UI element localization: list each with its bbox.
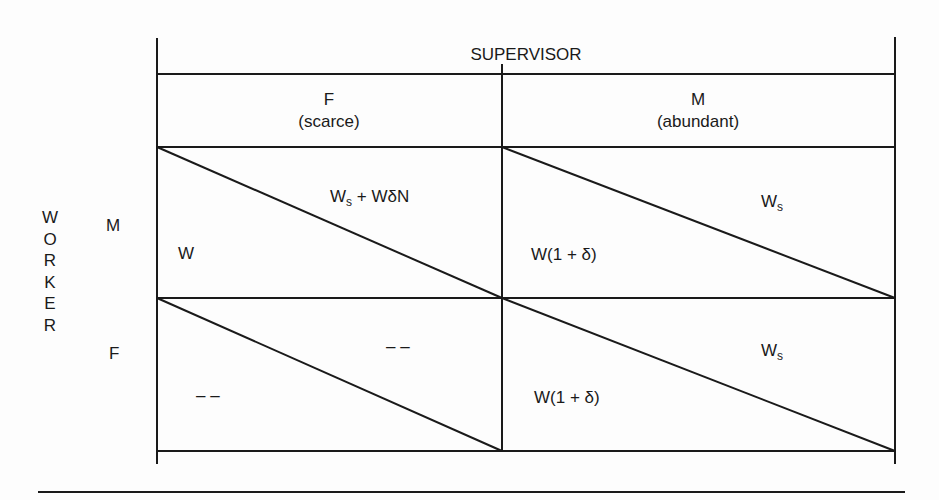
payoff-grid-lines xyxy=(0,0,939,500)
cell-m-m-upper: Ws xyxy=(761,193,783,213)
diagonal-f-f xyxy=(157,298,502,451)
worker-letter: R xyxy=(40,250,60,272)
worker-letter: K xyxy=(40,272,60,294)
diagonal-m-m xyxy=(502,147,895,298)
cell-m-f-upper: Ws + WδN xyxy=(330,188,409,208)
worker-letter: E xyxy=(40,293,60,315)
row-label-m: M xyxy=(106,217,120,234)
diagonal-m-f xyxy=(157,147,502,298)
cell-m-m-lower: W(1 + δ) xyxy=(531,246,597,263)
cell-m-f-lower: W xyxy=(178,245,194,262)
row-label-f: F xyxy=(109,345,119,362)
column-header-m: M xyxy=(691,91,705,108)
cell-f-m-lower: W(1 + δ) xyxy=(534,389,600,406)
column-header-f: F xyxy=(324,91,334,108)
cell-f-m-upper: Ws xyxy=(761,342,783,362)
diagonal-f-m xyxy=(502,298,895,451)
worker-axis-label: W O R K E R xyxy=(40,207,60,336)
supervisor-title: SUPERVISOR xyxy=(470,46,581,63)
column-subheader-f: (scarce) xyxy=(298,113,359,130)
cell-f-f-upper: – – xyxy=(386,338,410,355)
cell-f-f-lower: – – xyxy=(196,387,220,404)
column-subheader-m: (abundant) xyxy=(657,113,739,130)
worker-letter: R xyxy=(40,315,60,337)
worker-letter: O xyxy=(40,229,60,251)
worker-letter: W xyxy=(40,207,60,229)
